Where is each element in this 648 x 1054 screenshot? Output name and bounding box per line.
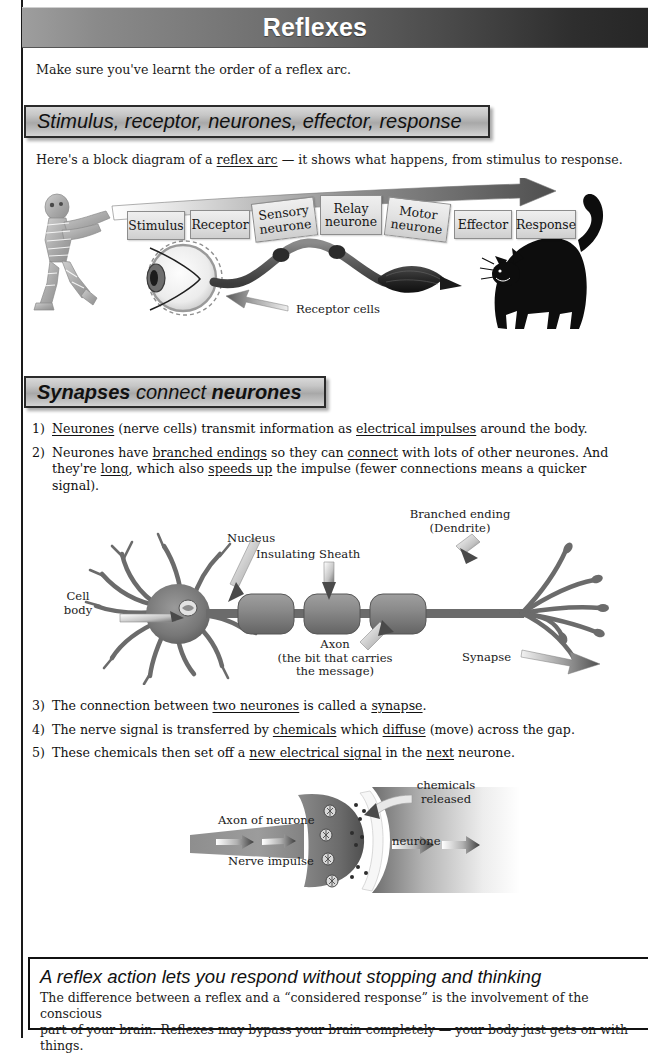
- block-receptor: Receptor: [190, 210, 250, 239]
- cell-body-label: Cell body: [58, 590, 98, 617]
- emphasis-term: diffuse: [383, 722, 426, 737]
- synapse-node-1: [273, 248, 290, 262]
- reflex-arc-intro: Here's a block diagram of a reflex arc —…: [36, 152, 623, 168]
- list-a-item-number: 2): [32, 445, 52, 495]
- plain-run: neurone.: [454, 745, 515, 760]
- list-b-item-number: 3): [32, 698, 52, 715]
- plain-run: , which also: [128, 461, 208, 476]
- summary-box: A reflex action lets you respond without…: [28, 957, 648, 1030]
- branched-ending-line2: (Dendrite): [430, 521, 491, 535]
- block-response-label: Response: [516, 218, 576, 232]
- block-sensory-neurone: Sensory neurone: [251, 196, 318, 242]
- muscle-icon: [378, 266, 462, 293]
- list-a-item-text: Neurones have branched endings so they c…: [52, 445, 632, 495]
- block-relay-neurone: Relay neurone: [320, 195, 382, 235]
- axon-label: Axon (the bit that carries the message): [260, 638, 410, 679]
- summary-body-line2: part of your brain. Reflexes may bypass …: [40, 1022, 628, 1053]
- list-b-item-number: 4): [32, 722, 52, 739]
- myelin-sheath-2: [304, 594, 360, 634]
- intro-text: Make sure you've learnt the order of a r…: [36, 62, 351, 77]
- block-response: Response: [516, 210, 576, 239]
- axon-label-main: Axon: [320, 637, 349, 651]
- insulating-sheath-label: Insulating Sheath: [256, 548, 360, 562]
- list-a-item: 1)Neurones (nerve cells) transmit inform…: [32, 421, 632, 438]
- emphasis-term: chemicals: [273, 722, 337, 737]
- chemicals-released-line2: released: [421, 792, 471, 806]
- page-title: Reflexes: [263, 13, 367, 42]
- receptor-cells-label: Receptor cells: [296, 303, 380, 317]
- cell-body-label-line2: body: [64, 603, 92, 617]
- block-motor-neurone-label: Motor neurone: [386, 202, 450, 236]
- block-motor-neurone: Motor neurone: [384, 196, 451, 242]
- list-b-item-text: The connection between two neurones is c…: [52, 698, 632, 715]
- emphasis-term: next: [426, 745, 454, 760]
- synapse-label: Synapse: [462, 651, 511, 665]
- reflex-arc-intro-after: — it shows what happens, from stimulus t…: [278, 152, 623, 167]
- sheath-pointer: [324, 562, 334, 584]
- plain-run: The connection between: [52, 698, 213, 713]
- nucleus: [179, 600, 197, 616]
- emphasis-term: speeds up: [208, 461, 272, 476]
- block-stimulus-label: Stimulus: [128, 219, 183, 233]
- synapse-node-2: [329, 245, 346, 259]
- cell-body-pointer: [120, 614, 176, 622]
- plain-run: The nerve signal is transferred by: [52, 722, 273, 737]
- heading-part-neurones: neurones: [212, 381, 302, 403]
- list-b-item-number: 5): [32, 745, 52, 762]
- plain-run: which: [336, 722, 382, 737]
- plain-run: (move) across the gap.: [426, 722, 575, 737]
- section-heading-stimulus-receptor: Stimulus, receptor, neurones, effector, …: [24, 105, 490, 138]
- nerve-pathway: [214, 243, 384, 284]
- reflex-arc-intro-before: Here's a block diagram of a: [36, 152, 217, 167]
- list-a-item: 2)Neurones have branched endings so they…: [32, 445, 632, 495]
- reflex-arc-link: reflex arc: [217, 152, 278, 167]
- mummy-figure-icon: [34, 194, 110, 310]
- list-b-item-text: The nerve signal is transferred by chemi…: [52, 722, 632, 739]
- section-heading-2-text: Synapses connect neurones: [37, 381, 302, 404]
- dendrite-pointer: [456, 534, 480, 554]
- plain-run: .: [423, 698, 427, 713]
- heading-part-connect: connect: [130, 381, 211, 403]
- list-b-item: 3)The connection between two neurones is…: [32, 698, 632, 715]
- list-a-item-text: Neurones (nerve cells) transmit informat…: [52, 421, 632, 438]
- branched-ending-label: Branched ending (Dendrite): [390, 508, 530, 535]
- block-effector: Effector: [454, 210, 512, 239]
- emphasis-term: electrical impulses: [356, 421, 476, 436]
- axon-label-note1: (the bit that carries: [277, 651, 392, 665]
- nucleus-pointer: [230, 538, 260, 588]
- emphasis-term: two neurones: [213, 698, 300, 713]
- list-b-item-text: These chemicals then set off a new elect…: [52, 745, 632, 762]
- axon-label-note2: the message): [296, 664, 374, 678]
- block-stimulus: Stimulus: [127, 211, 185, 240]
- numbered-list-a: 1)Neurones (nerve cells) transmit inform…: [32, 421, 632, 501]
- emphasis-term: Neurones: [52, 421, 114, 436]
- block-sensory-neurone-label: Sensory neurone: [253, 202, 317, 236]
- eye-icon: [147, 241, 222, 315]
- chemicals-released-line1: chemicals: [417, 778, 476, 792]
- emphasis-term: new electrical signal: [249, 745, 381, 760]
- synapse-diagram: Axon of neurone Nerve impulse chemicals …: [180, 775, 520, 900]
- numbered-list-b: 3)The connection between two neurones is…: [32, 698, 632, 769]
- heading-part-synapses: Synapses: [37, 381, 130, 403]
- branched-ending-line1: Branched ending: [410, 507, 511, 521]
- synapse-arrow: [521, 650, 600, 674]
- nerve-impulse-label: Nerve impulse: [228, 855, 314, 869]
- block-effector-label: Effector: [458, 218, 508, 232]
- page-title-bar: Reflexes: [22, 7, 648, 48]
- next-neurone-label: neurone: [392, 835, 441, 849]
- plain-run: (nerve cells) transmit information as: [114, 421, 356, 436]
- block-receptor-label: Receptor: [191, 218, 248, 232]
- plain-run: These chemicals then set off a: [52, 745, 249, 760]
- plain-run: around the body.: [476, 421, 587, 436]
- list-b-item: 5)These chemicals then set off a new ele…: [32, 745, 632, 762]
- summary-heading: A reflex action lets you respond without…: [40, 966, 638, 988]
- page-margin-rule: [21, 0, 23, 1038]
- list-b-item: 4)The nerve signal is transferred by che…: [32, 722, 632, 739]
- cell-body-label-line1: Cell: [66, 589, 89, 603]
- reflex-arc-diagram: Stimulus Receptor Sensory neurone Relay …: [0, 178, 648, 343]
- section-heading-1-text: Stimulus, receptor, neurones, effector, …: [37, 110, 462, 133]
- receptor-cells-callout-arrow: [226, 290, 288, 311]
- summary-body: The difference between a reflex and a “c…: [40, 990, 638, 1054]
- plain-run: is called a: [299, 698, 371, 713]
- plain-run: Neurones have: [52, 445, 152, 460]
